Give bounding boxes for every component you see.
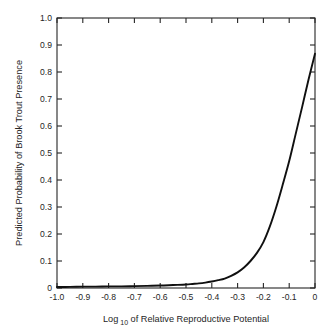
- y-tick-label: 0.2: [40, 229, 52, 239]
- y-tick-label: 1.0: [40, 13, 52, 23]
- y-axis-title: Predicted Probability of Brook Trout Pre…: [14, 60, 24, 246]
- x-tick-label: -0.9: [75, 292, 90, 302]
- x-axis-title-rest: of Relative Reproductive Potential: [131, 314, 269, 324]
- y-tick-label: 0.5: [40, 148, 52, 158]
- x-tick-label: 0: [313, 292, 318, 302]
- x-tick-label: -0.8: [101, 292, 116, 302]
- x-axis-title-subscript: 10: [120, 319, 128, 326]
- y-tick-label: 0: [47, 283, 52, 293]
- x-tick-label: -1.0: [50, 292, 65, 302]
- y-tick-label: 0.4: [40, 175, 52, 185]
- x-axis-title-main: Log: [103, 314, 118, 324]
- x-tick-label: -0.1: [282, 292, 297, 302]
- y-tick-label: 0.8: [40, 67, 52, 77]
- y-tick-label: 0.7: [40, 94, 52, 104]
- y-tick-label: 0.9: [40, 40, 52, 50]
- chart-figure: -1.0-0.9-0.8-0.7-0.6-0.5-0.4-0.3-0.2-0.1…: [0, 0, 336, 335]
- y-tick-label: 0.3: [40, 202, 52, 212]
- x-tick-label: -0.7: [127, 292, 142, 302]
- y-tick-label: 0.6: [40, 121, 52, 131]
- x-tick-label: -0.6: [153, 292, 168, 302]
- x-tick-label: -0.4: [204, 292, 219, 302]
- x-tick-label: -0.3: [230, 292, 245, 302]
- probability-curve-plot: -1.0-0.9-0.8-0.7-0.6-0.5-0.4-0.3-0.2-0.1…: [0, 0, 336, 335]
- x-tick-label: -0.5: [179, 292, 194, 302]
- x-tick-label: -0.2: [256, 292, 271, 302]
- y-tick-label: 0.1: [40, 256, 52, 266]
